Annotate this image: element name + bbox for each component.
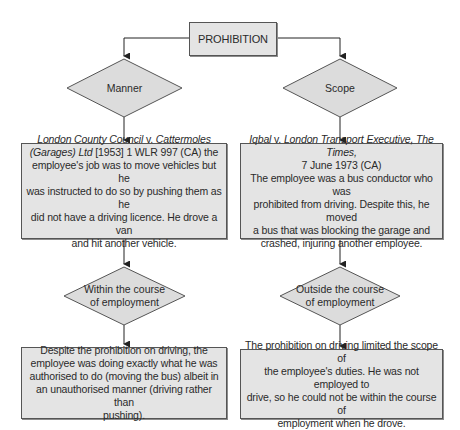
outcome-line: pushing). [103,409,145,422]
outcome-box-manner: Despite the prohibition on driving, the … [21,347,227,419]
connector-root-to-manner [124,38,189,56]
case-body-line: a bus that was blocking the garage and [253,224,430,237]
case-title-line: Times, [326,146,357,159]
decision-label-within-course: Within the course of employment [64,267,185,325]
outcome-line: employee was doing exactly what he was [31,357,218,370]
outcome-line: The prohibition on driving limited the s… [244,339,439,365]
case-title-line: (Garages) Ltd [1953] 1 WLR 997 (CA) the [30,146,219,159]
decision-label-outside-course: Outside the course of employment [280,267,400,325]
outcome-line: authorised to do (moving the bus) albeit… [29,370,218,383]
case-body-line: prohibited from driving. Despite this, h… [244,198,439,224]
decision-label-manner: Manner [67,59,182,117]
outcome-line: Despite the prohibition on driving, the [40,344,208,357]
outcome-box-scope: The prohibition on driving limited the s… [240,349,443,419]
outcome-line: drive, so he could not be within the cou… [244,391,439,417]
outcome-line: the employee's duties. He was not employ… [244,365,439,391]
outcome-line: an unauthorised manner (driving rather t… [25,383,223,409]
case-body-line: and hit another vehicle. [72,237,177,250]
case-body-line: The employee was a bus conductor who was [244,172,439,198]
root-label: PROHIBITION [198,33,268,46]
connector-root-to-scope [277,38,340,56]
case-body-line: employee's job was to move vehicles but … [25,159,223,185]
case-title-line: London County Council v. Cattermoles [37,133,211,146]
root-node-prohibition: PROHIBITION [189,22,277,56]
case-title-line: Iqbal v. London Transport Executive, The [249,133,433,146]
case-body-line: crashed, injuring another employee. [261,237,423,250]
case-box-london-county-council: London County Council v. Cattermoles (Ga… [21,143,227,239]
case-box-iqbal: Iqbal v. London Transport Executive, The… [240,143,443,239]
decision-label-scope: Scope [283,59,397,117]
outcome-line: employment when he drove. [277,417,405,430]
case-citation: 7 June 1973 (CA) [302,159,382,172]
case-body-line: did not have a driving licence. He drove… [25,211,223,237]
case-body-line: was instructed to do so by pushing them … [25,185,223,211]
